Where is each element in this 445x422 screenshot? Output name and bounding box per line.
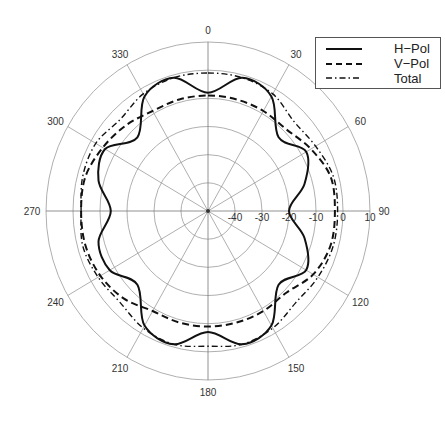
angular-tick-label: 300 — [47, 116, 64, 127]
radial-tick-label: -30 — [255, 212, 270, 223]
angular-tick-label: 240 — [47, 297, 64, 308]
legend-item-h-pol: H−Pol — [316, 41, 440, 56]
radial-tick-label: -10 — [309, 212, 324, 223]
solid-line-swatch — [326, 48, 362, 50]
legend-item-total: Total — [316, 71, 440, 86]
legend-label: H−Pol — [394, 41, 430, 56]
dashed-line-swatch — [326, 63, 362, 65]
grid-spoke — [68, 211, 208, 296]
radial-tick-label: 0 — [340, 212, 346, 223]
angular-tick-label: 90 — [378, 206, 390, 217]
legend-label: V−Pol — [394, 56, 429, 71]
angular-tick-label: 330 — [112, 49, 129, 60]
grid-spoke — [127, 65, 208, 211]
radial-tick-label: 10 — [364, 212, 376, 223]
radial-tick-labels: -40-30-20-10010 — [228, 212, 376, 223]
dashdot-line-swatch — [326, 76, 362, 80]
radial-tick-label: -40 — [228, 212, 243, 223]
angular-tick-label: 30 — [290, 49, 302, 60]
legend: H−Pol V−Pol Total — [315, 37, 441, 89]
angular-tick-label: 60 — [355, 116, 367, 127]
legend-label: Total — [394, 71, 421, 86]
angular-tick-label: 120 — [352, 297, 369, 308]
angular-tick-label: 180 — [200, 387, 217, 398]
angular-tick-label: 0 — [205, 25, 211, 36]
legend-item-v-pol: V−Pol — [316, 56, 440, 71]
center-point — [206, 209, 210, 213]
angular-tick-label: 270 — [24, 206, 41, 217]
angular-tick-label: 150 — [288, 363, 305, 374]
angular-tick-label: 210 — [112, 363, 129, 374]
grid-spoke — [208, 65, 289, 211]
